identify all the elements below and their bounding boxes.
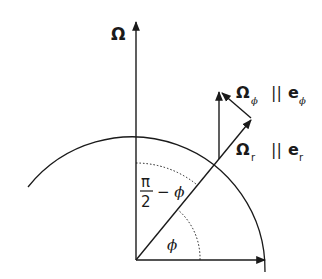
fraction-numerator-pi: π	[141, 173, 150, 191]
parallel-symbol-2: ||	[271, 140, 282, 159]
fraction-denominator-2: 2	[141, 193, 151, 211]
omega-r-arrow	[136, 120, 251, 260]
omega-axis-label: Ω	[111, 24, 125, 44]
e-r-label: e	[288, 140, 299, 159]
phi-angle-arc	[177, 209, 200, 260]
omega-r-subscript: r	[251, 152, 256, 163]
minus-phi-label: − ϕ	[157, 183, 185, 201]
phi-angle-label: ϕ	[167, 236, 177, 254]
omega-phi-subscript: ϕ	[251, 95, 258, 106]
rotation-decomposition-diagram: Ω Ω ϕ || e ϕ Ω r || e r π 2 − ϕ ϕ	[0, 0, 322, 279]
parallel-symbol-1: ||	[271, 83, 282, 102]
omega-phi-label: Ω	[236, 83, 250, 102]
e-r-subscript: r	[299, 152, 304, 163]
e-phi-subscript: ϕ	[299, 95, 306, 106]
e-phi-label: e	[288, 83, 299, 102]
omega-r-label: Ω	[236, 140, 250, 159]
